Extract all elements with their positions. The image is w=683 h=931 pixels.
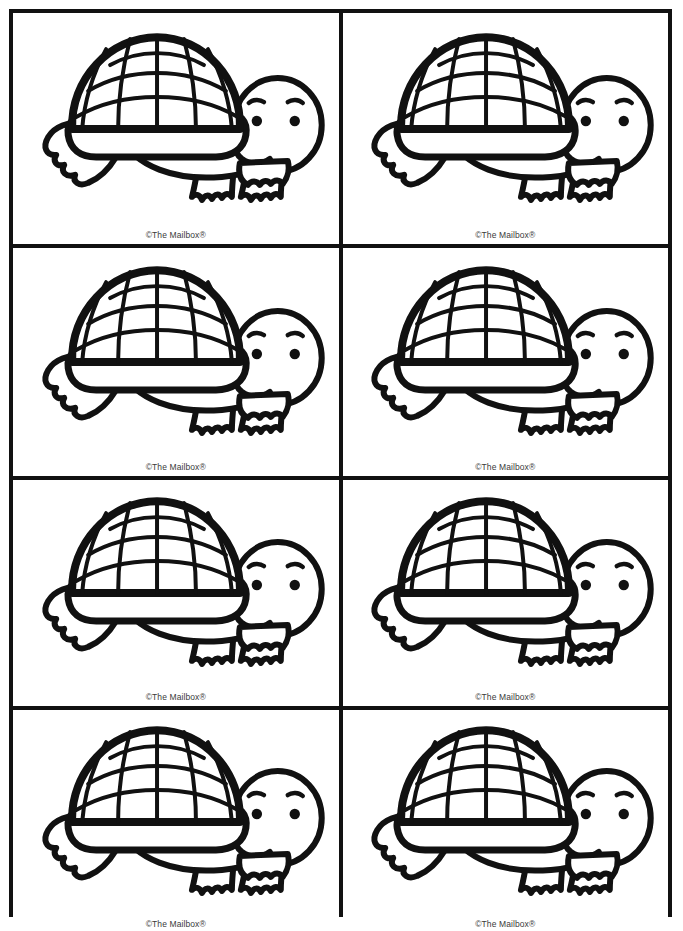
turtle-card[interactable]: ©The Mailbox® <box>343 710 669 931</box>
turtle-card[interactable]: ©The Mailbox® <box>343 480 669 706</box>
turtle-artwork <box>13 710 339 931</box>
turtle-illustration <box>26 17 325 227</box>
turtle-illustration <box>26 481 325 691</box>
turtle-artwork <box>13 248 339 476</box>
turtle-artwork <box>343 480 669 706</box>
turtle-illustration <box>26 250 325 460</box>
turtle-card[interactable]: ©The Mailbox® <box>13 13 339 244</box>
copyright-credit: ©The Mailbox® <box>13 920 339 929</box>
turtle-card[interactable]: ©The Mailbox® <box>343 13 669 244</box>
copyright-credit: ©The Mailbox® <box>343 920 669 929</box>
turtle-artwork <box>343 248 669 476</box>
turtle-artwork <box>343 13 669 244</box>
turtle-card[interactable]: ©The Mailbox® <box>13 710 339 931</box>
copyright-credit: ©The Mailbox® <box>13 693 339 702</box>
copyright-credit: ©The Mailbox® <box>343 231 669 240</box>
turtle-illustration <box>356 17 655 227</box>
copyright-credit: ©The Mailbox® <box>343 463 669 472</box>
turtle-illustration <box>356 250 655 460</box>
turtle-card[interactable]: ©The Mailbox® <box>13 480 339 706</box>
turtle-artwork <box>13 480 339 706</box>
copyright-credit: ©The Mailbox® <box>343 693 669 702</box>
turtle-artwork <box>13 13 339 244</box>
card-grid: ©The Mailbox® <box>9 9 672 917</box>
copyright-credit: ©The Mailbox® <box>13 463 339 472</box>
turtle-card[interactable]: ©The Mailbox® <box>343 248 669 476</box>
turtle-illustration <box>356 481 655 691</box>
turtle-illustration <box>26 710 325 920</box>
turtle-illustration <box>356 710 655 920</box>
turtle-card[interactable]: ©The Mailbox® <box>13 248 339 476</box>
copyright-credit: ©The Mailbox® <box>13 231 339 240</box>
turtle-artwork <box>343 710 669 931</box>
